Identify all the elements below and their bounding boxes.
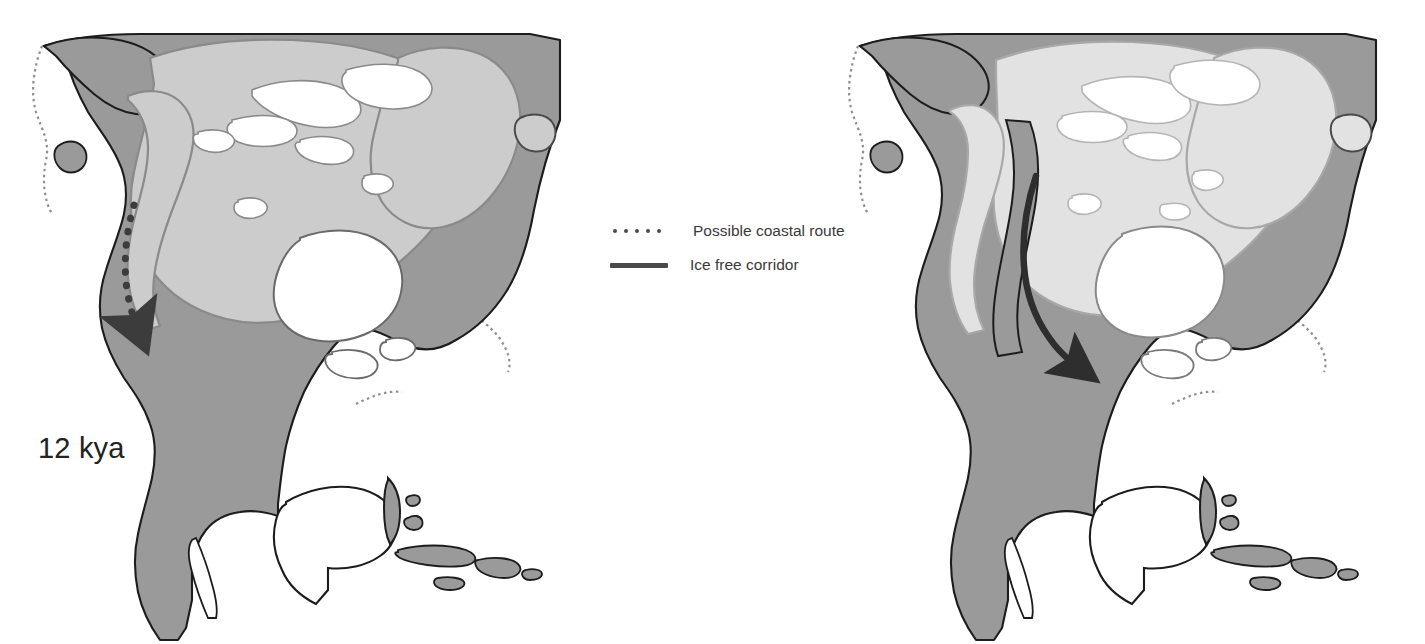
iceland — [1331, 115, 1372, 152]
legend: Possible coastal route Ice free corridor — [608, 214, 808, 282]
legend-label-ice-free-corridor: Ice free corridor — [674, 256, 799, 274]
map-panel-11-5kya: 11.5 kya — [810, 0, 1425, 644]
legend-label-coastal-route: Possible coastal route — [677, 222, 845, 240]
map-panel-12kya: 12 kya — [0, 0, 600, 644]
era-label-12kya: 12 kya — [38, 432, 125, 465]
solid-line-icon — [608, 263, 674, 268]
dotted-line-icon — [608, 229, 677, 233]
map-graphic-11-5kya — [810, 0, 1425, 644]
legend-item-coastal-route: Possible coastal route — [608, 214, 808, 248]
paleogeographic-map-figure: 12 kya — [0, 0, 1425, 644]
iceland — [515, 115, 556, 152]
map-graphic-12kya — [0, 0, 600, 644]
legend-item-ice-free-corridor: Ice free corridor — [608, 248, 808, 282]
